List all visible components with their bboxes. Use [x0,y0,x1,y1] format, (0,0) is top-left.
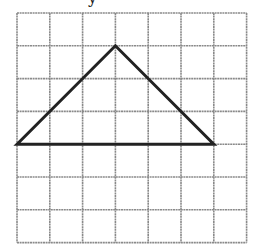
grid-diagram [0,0,258,244]
square-grid [17,13,247,243]
